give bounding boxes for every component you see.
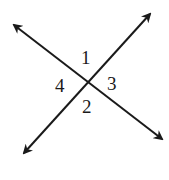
angle-label-1: 1 (81, 48, 91, 67)
intersecting-lines-diagram: 1 2 3 4 (0, 0, 169, 180)
angle-label-3: 3 (107, 74, 117, 93)
angle-label-2: 2 (82, 97, 92, 116)
line-b (24, 14, 150, 153)
lines-canvas (0, 0, 169, 180)
angle-label-4: 4 (55, 76, 65, 95)
